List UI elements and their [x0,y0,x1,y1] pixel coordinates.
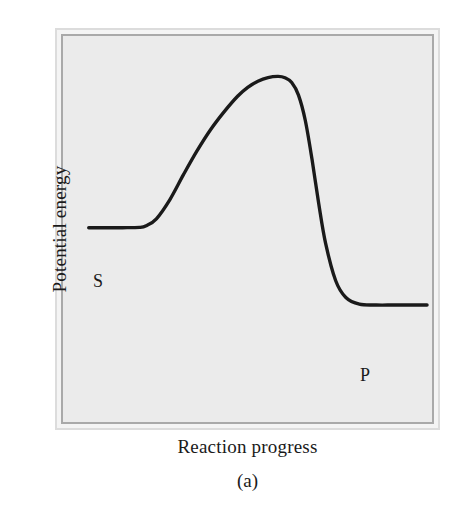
plot-frame-outer [55,28,440,430]
plot-canvas [63,36,432,422]
y-axis-title: Potential energy [40,28,80,430]
energy-profile-curve [89,76,427,305]
figure-caption: (a) [55,470,440,492]
substrate-label: S [93,272,103,290]
plot-frame-inner [61,34,434,424]
energy-diagram-figure: S P Potential energy Reaction progress (… [0,0,473,508]
x-axis-title: Reaction progress [55,436,440,458]
product-label: P [360,366,370,384]
